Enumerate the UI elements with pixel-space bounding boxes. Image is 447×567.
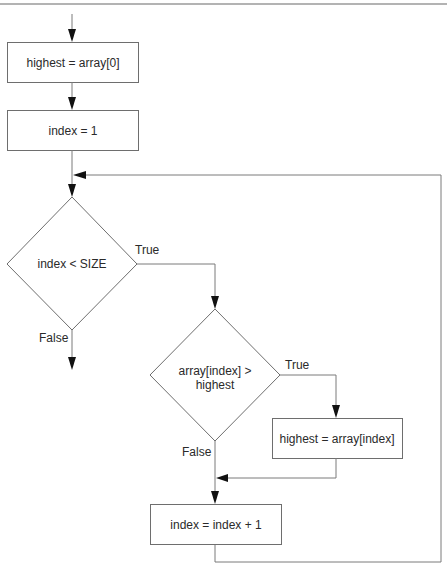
compare-true-label: True bbox=[285, 358, 310, 372]
decision-loop-condition-label: index < SIZE bbox=[37, 257, 106, 271]
process-increment: index = index + 1 bbox=[151, 505, 282, 545]
arrow-assign-to-merge bbox=[216, 458, 336, 482]
arrow-compare-false: False bbox=[182, 441, 219, 504]
loop-true-label: True bbox=[135, 243, 160, 257]
process-init-highest: highest = array[0] bbox=[8, 43, 139, 83]
process-assign-highest: highest = array[index] bbox=[273, 419, 403, 459]
process-increment-label: index = index + 1 bbox=[170, 518, 262, 532]
flowchart-canvas: highest = array[0] index = 1 index < SIZ… bbox=[0, 0, 447, 567]
process-init-index-label: index = 1 bbox=[48, 124, 97, 138]
loop-false-label: False bbox=[39, 331, 69, 345]
arrow-loop-false: False bbox=[39, 330, 76, 370]
arrow-loop-true: True bbox=[135, 243, 219, 309]
compare-false-label: False bbox=[182, 445, 212, 459]
entry-arrow bbox=[68, 14, 76, 42]
process-assign-highest-label: highest = array[index] bbox=[279, 432, 394, 446]
process-init-highest-label: highest = array[0] bbox=[26, 56, 119, 70]
decision-compare-label-line1: array[index] > bbox=[178, 364, 251, 378]
decision-compare: array[index] > highest bbox=[150, 309, 280, 441]
decision-compare-label-line2: highest bbox=[196, 378, 235, 392]
arrow-compare-true: True bbox=[280, 358, 340, 418]
arrow-init-highest-to-init-index bbox=[68, 82, 76, 110]
arrow-init-index-to-loop-condition bbox=[68, 150, 76, 197]
decision-loop-condition: index < SIZE bbox=[7, 197, 137, 330]
process-init-index: index = 1 bbox=[8, 111, 139, 151]
